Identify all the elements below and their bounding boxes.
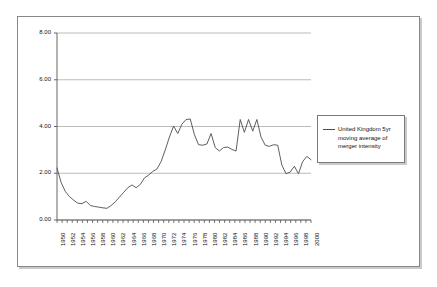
x-axis-tick-label: 1968: [151, 233, 158, 246]
x-axis-tick-label: 1958: [100, 233, 107, 246]
legend-line-swatch-icon: [323, 129, 335, 130]
x-axis-tick-label: 1980: [212, 233, 219, 246]
x-axis-tick-label: 1970: [161, 233, 168, 246]
x-axis-tick-label: 1978: [202, 233, 209, 246]
x-axis-tick-label: 1964: [131, 233, 138, 246]
legend-entry: United Kingdom 5yr moving average of mer…: [323, 125, 402, 151]
x-axis-tick-label: 1992: [273, 233, 280, 246]
x-axis-tick-label: 2000: [314, 233, 321, 246]
x-axis-tick-label: 1962: [120, 233, 127, 246]
x-axis-tick-label: 1998: [303, 233, 310, 246]
x-axis-tick-label: 1984: [232, 233, 239, 246]
y-axis-tick-label: 4.00: [27, 123, 51, 130]
y-axis-tick-label: 0.00: [27, 216, 51, 223]
y-axis-tick-label: 8.00: [27, 29, 51, 36]
plot-area: 8.006.004.002.000.00 1950195219541956195…: [18, 17, 421, 268]
x-axis-tick-label: 1982: [222, 233, 229, 246]
data-series-line: [57, 119, 311, 208]
y-axis-tick-label: 2.00: [27, 169, 51, 176]
x-axis-tick-label: 1990: [263, 233, 270, 246]
x-axis-tick-label: 1954: [80, 233, 87, 246]
x-axis-tick-label: 1976: [192, 233, 199, 246]
x-axis-tick-label: 1988: [253, 233, 260, 246]
x-axis-tick-label: 1994: [283, 233, 290, 246]
chart-legend: United Kingdom 5yr moving average of mer…: [317, 115, 405, 163]
x-axis-tick-label: 1972: [171, 233, 178, 246]
x-axis-tick-label: 1952: [70, 233, 77, 246]
legend-entry-label: United Kingdom 5yr moving average of mer…: [338, 125, 402, 151]
x-axis-tick-label: 1986: [242, 233, 249, 246]
x-axis-tick-label: 1966: [141, 233, 148, 246]
y-axis-tick-label: 6.00: [27, 76, 51, 83]
x-axis-tick-label: 1956: [90, 233, 97, 246]
x-axis-tick-label: 1960: [110, 233, 117, 246]
chart-frame: 8.006.004.002.000.00 1950195219541956195…: [17, 16, 420, 267]
x-axis-tick-label: 1996: [293, 233, 300, 246]
x-axis-tick-label: 1974: [181, 233, 188, 246]
x-axis-tick-label: 1950: [60, 233, 67, 246]
